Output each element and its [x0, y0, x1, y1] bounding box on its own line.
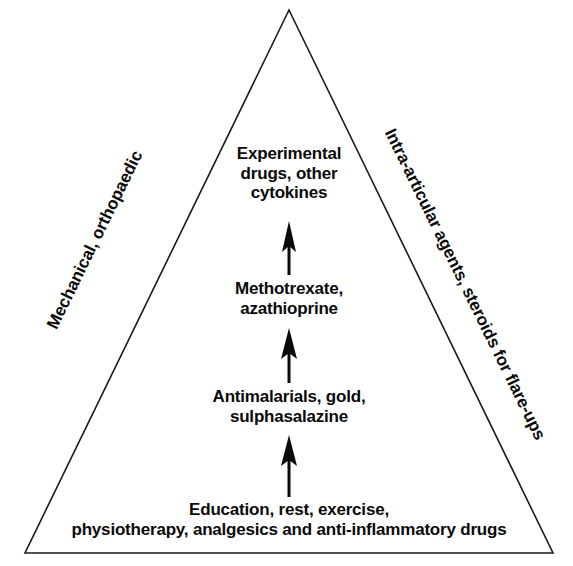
tier-label-education-rest-exercise: Education, rest, exercise, physiotherapy… — [28, 500, 550, 539]
arrow-tier3-to-tier4 — [282, 221, 296, 275]
pyramid-diagram: Experimental drugs, other cytokines Meth… — [0, 0, 573, 566]
arrow-tier1-to-tier2 — [281, 435, 297, 497]
arrow-tier2-to-tier3 — [281, 328, 297, 383]
tier-label-methotrexate: Methotrexate, azathioprine — [173, 279, 405, 318]
tier-label-experimental-drugs: Experimental drugs, other cytokines — [173, 144, 405, 203]
tier-label-antimalarials: Antimalarials, gold, sulphasalazine — [155, 387, 423, 426]
